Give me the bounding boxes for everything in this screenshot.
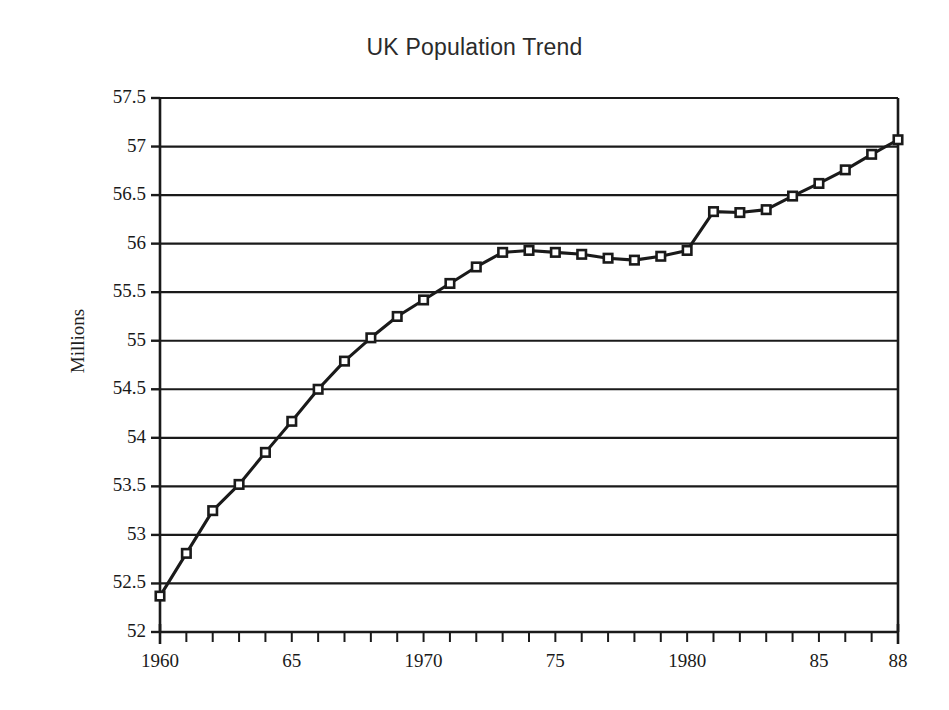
y-tick-label: 57 (88, 135, 146, 157)
data-point-marker (261, 448, 270, 457)
x-tick-label: 75 (515, 650, 595, 672)
data-point-marker (288, 417, 297, 426)
data-point-marker (867, 150, 876, 159)
y-tick-label: 54.5 (88, 377, 146, 399)
data-point-marker (208, 506, 217, 515)
data-point-marker (393, 312, 402, 321)
data-point-marker (577, 250, 586, 259)
data-point-marker (235, 480, 244, 489)
data-point-marker (762, 205, 771, 214)
data-point-marker (736, 208, 745, 217)
data-point-marker (156, 592, 165, 601)
y-tick-label: 53 (88, 523, 146, 545)
data-point-marker (525, 246, 534, 255)
y-tick-label: 52.5 (88, 571, 146, 593)
data-point-marker (367, 334, 376, 343)
x-tick-label: 88 (858, 650, 938, 672)
data-point-marker (841, 166, 850, 175)
data-point-marker (314, 385, 323, 394)
y-tick-label: 55 (88, 329, 146, 351)
data-point-marker (683, 246, 692, 255)
data-point-marker (657, 252, 666, 261)
chart-figure: UK Population Trend Millions 5252.55353.… (0, 0, 949, 710)
data-point-marker (182, 549, 191, 558)
x-tick-label: 85 (779, 650, 859, 672)
y-tick-label: 56.5 (88, 183, 146, 205)
data-point-marker (894, 136, 903, 145)
y-tick-label: 52 (88, 620, 146, 642)
data-point-marker (630, 256, 639, 265)
data-point-marker (419, 296, 428, 305)
x-tick-label: 1960 (120, 650, 200, 672)
y-tick-label: 53.5 (88, 474, 146, 496)
series-line (160, 140, 898, 596)
data-point-marker (446, 279, 455, 288)
x-tick-label: 65 (252, 650, 332, 672)
data-point-marker (815, 179, 824, 188)
y-tick-label: 54 (88, 426, 146, 448)
axis-frame (160, 98, 898, 632)
data-point-marker (604, 254, 613, 263)
x-tick-label: 1970 (384, 650, 464, 672)
data-point-markers (156, 136, 903, 601)
data-point-marker (498, 248, 507, 257)
x-axis-ticks (160, 624, 898, 644)
gridlines (160, 98, 898, 583)
data-line-series (160, 140, 898, 596)
y-tick-label: 55.5 (88, 280, 146, 302)
data-point-marker (709, 207, 718, 216)
data-point-marker (472, 263, 481, 272)
data-point-marker (551, 248, 560, 257)
data-point-marker (788, 192, 797, 201)
x-tick-label: 1980 (647, 650, 727, 672)
data-point-marker (340, 357, 349, 366)
y-axis-ticks (151, 98, 160, 632)
y-tick-label: 56 (88, 232, 146, 254)
y-tick-label: 57.5 (88, 86, 146, 108)
